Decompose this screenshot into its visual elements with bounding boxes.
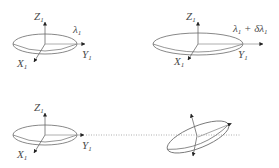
- eigenvalue-label: λ1: [72, 23, 81, 37]
- x-axis-label: X1: [16, 57, 27, 71]
- z-axis-label: Z1: [34, 10, 44, 24]
- ellipsoid-equator: [13, 135, 77, 142]
- x-axis-label: X1: [173, 55, 184, 69]
- panel-top-right: Z1 Y1 X1 λ1 + δλ1: [153, 10, 268, 69]
- z-axis-label: Z1: [186, 10, 196, 24]
- y-axis-label: Y1: [82, 48, 92, 62]
- perturbed-eigenvalue-label: λ1 + δλ1: [232, 22, 268, 36]
- ellipsoid-perturbation-diagram: Z1 Y1 X1 λ1 Z1 Y1 X1 λ1 + δλ1 Z1 Y1 X1: [0, 0, 279, 168]
- x-axis: [34, 44, 45, 62]
- x-axis: [34, 135, 45, 153]
- ellipsoid-equator: [153, 44, 243, 52]
- x-axis-label: X1: [16, 148, 27, 162]
- ellipsoid-equator: [13, 44, 77, 51]
- rotated-z-axis: [191, 114, 197, 136]
- z-axis-label: Z1: [34, 101, 44, 115]
- y-axis-label: Y1: [82, 139, 92, 153]
- panel-bottom-left: Z1 Y1 X1: [13, 101, 92, 162]
- panel-top-left: Z1 Y1 X1 λ1: [13, 10, 92, 71]
- rotated-ellipsoid-equator: [167, 125, 231, 156]
- panel-bottom-right: [163, 113, 235, 159]
- y-axis-label: Y1: [238, 48, 248, 62]
